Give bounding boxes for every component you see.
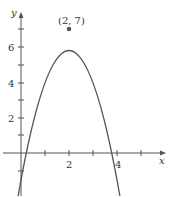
x-tick-label-2: 2 xyxy=(66,159,72,170)
y-tick-label-4: 4 xyxy=(8,78,14,89)
y-axis-arrow-icon xyxy=(19,12,24,18)
vertex-point xyxy=(67,27,72,32)
parabola-curve xyxy=(18,51,120,197)
parabola-graph: 2 4 2 4 6 x y (2, 7) xyxy=(0,0,170,196)
x-tick-label-4: 4 xyxy=(115,159,121,170)
y-tick-label-6: 6 xyxy=(8,42,14,53)
x-axis-label: x xyxy=(159,155,165,166)
vertex-label: (2, 7) xyxy=(58,15,85,26)
y-axis-label: y xyxy=(10,7,17,18)
y-tick-label-2: 2 xyxy=(8,113,14,124)
